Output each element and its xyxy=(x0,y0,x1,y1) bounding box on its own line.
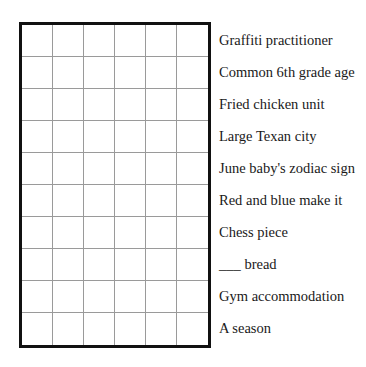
grid-cell-r8-c2[interactable] xyxy=(53,249,84,281)
grid-cell-r9-c6[interactable] xyxy=(177,281,208,313)
clue-4: Large Texan city xyxy=(219,121,366,153)
grid-cell-r3-c3[interactable] xyxy=(84,89,115,121)
grid-cell-r5-c3[interactable] xyxy=(84,153,115,185)
clue-10: A season xyxy=(219,313,366,345)
grid-cell-r8-c6[interactable] xyxy=(177,249,208,281)
grid-cell-r8-c5[interactable] xyxy=(146,249,177,281)
grid-cell-r8-c1[interactable] xyxy=(22,249,53,281)
grid-cell-r7-c6[interactable] xyxy=(177,217,208,249)
grid-cell-r5-c5[interactable] xyxy=(146,153,177,185)
grid-cell-r1-c1[interactable] xyxy=(22,25,53,57)
grid-cell-r10-c5[interactable] xyxy=(146,313,177,345)
clue-5: June baby's zodiac sign xyxy=(219,153,366,185)
grid-cell-r6-c3[interactable] xyxy=(84,185,115,217)
clue-1: Graffiti practitioner xyxy=(219,25,366,57)
grid-cell-r5-c2[interactable] xyxy=(53,153,84,185)
grid-cell-r2-c2[interactable] xyxy=(53,57,84,89)
grid-cell-r3-c6[interactable] xyxy=(177,89,208,121)
grid-cell-r10-c1[interactable] xyxy=(22,313,53,345)
grid-cell-r4-c6[interactable] xyxy=(177,121,208,153)
grid-cell-r6-c4[interactable] xyxy=(115,185,146,217)
grid-cell-r5-c1[interactable] xyxy=(22,153,53,185)
clue-7: Chess piece xyxy=(219,217,366,249)
clue-2: Common 6th grade age xyxy=(219,57,366,89)
grid-cell-r9-c5[interactable] xyxy=(146,281,177,313)
clue-list: Graffiti practitioner Common 6th grade a… xyxy=(219,25,366,345)
grid-cell-r2-c3[interactable] xyxy=(84,57,115,89)
grid-cell-r1-c6[interactable] xyxy=(177,25,208,57)
grid-cell-r6-c5[interactable] xyxy=(146,185,177,217)
grid-cell-r7-c4[interactable] xyxy=(115,217,146,249)
grid-cell-r10-c4[interactable] xyxy=(115,313,146,345)
grid-cell-r4-c1[interactable] xyxy=(22,121,53,153)
grid-cell-r8-c3[interactable] xyxy=(84,249,115,281)
grid-cell-r4-c3[interactable] xyxy=(84,121,115,153)
grid-cell-r10-c2[interactable] xyxy=(53,313,84,345)
grid-cell-r2-c6[interactable] xyxy=(177,57,208,89)
grid-cell-r2-c1[interactable] xyxy=(22,57,53,89)
grid-cell-r9-c2[interactable] xyxy=(53,281,84,313)
grid-cell-r3-c1[interactable] xyxy=(22,89,53,121)
clue-6: Red and blue make it xyxy=(219,185,366,217)
grid-cell-r2-c4[interactable] xyxy=(115,57,146,89)
grid-cell-r1-c5[interactable] xyxy=(146,25,177,57)
grid-cell-r1-c2[interactable] xyxy=(53,25,84,57)
grid-cell-r8-c4[interactable] xyxy=(115,249,146,281)
grid-cell-r9-c4[interactable] xyxy=(115,281,146,313)
clue-9: Gym accommodation xyxy=(219,281,366,313)
grid-cell-r3-c2[interactable] xyxy=(53,89,84,121)
grid-cell-r7-c2[interactable] xyxy=(53,217,84,249)
grid-cell-r10-c3[interactable] xyxy=(84,313,115,345)
grid-cell-r3-c4[interactable] xyxy=(115,89,146,121)
grid-cell-r1-c3[interactable] xyxy=(84,25,115,57)
grid-cell-r4-c5[interactable] xyxy=(146,121,177,153)
grid-cell-r9-c3[interactable] xyxy=(84,281,115,313)
grid-cell-r7-c3[interactable] xyxy=(84,217,115,249)
grid-cell-r6-c1[interactable] xyxy=(22,185,53,217)
grid-cell-r2-c5[interactable] xyxy=(146,57,177,89)
grid-cell-r5-c6[interactable] xyxy=(177,153,208,185)
grid-cell-r9-c1[interactable] xyxy=(22,281,53,313)
grid-cell-r4-c2[interactable] xyxy=(53,121,84,153)
grid-cell-r6-c2[interactable] xyxy=(53,185,84,217)
grid-cell-r5-c4[interactable] xyxy=(115,153,146,185)
grid-cell-r1-c4[interactable] xyxy=(115,25,146,57)
grid-cell-r7-c1[interactable] xyxy=(22,217,53,249)
clue-3: Fried chicken unit xyxy=(219,89,366,121)
puzzle-grid xyxy=(19,22,211,348)
grid-cell-r4-c4[interactable] xyxy=(115,121,146,153)
grid-cell-r10-c6[interactable] xyxy=(177,313,208,345)
grid-cell-r7-c5[interactable] xyxy=(146,217,177,249)
grid-cell-r6-c6[interactable] xyxy=(177,185,208,217)
grid-cell-r3-c5[interactable] xyxy=(146,89,177,121)
clue-8: ___ bread xyxy=(219,249,366,281)
